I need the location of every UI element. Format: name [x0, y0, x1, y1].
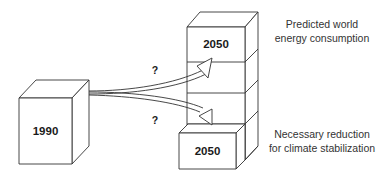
arrow-lower-shaft-bottom	[89, 95, 200, 112]
caption-reduced-line-2: for climate stabilization	[269, 142, 375, 154]
caption-reduced-line-1: Necessary reduction	[274, 128, 370, 140]
caption-predicted-line-2: energy consumption	[275, 32, 370, 44]
arrow-lower-question-mark: ?	[152, 114, 158, 126]
arrow-upper-shaft-top	[89, 70, 203, 91]
arrow-upper-question-mark: ?	[152, 64, 158, 76]
caption-reduced: Necessary reduction for climate stabiliz…	[269, 128, 375, 154]
caption-predicted-line-1: Predicted world	[286, 18, 359, 30]
cube-1990-label: 1990	[33, 125, 59, 137]
cube-1990: 1990	[19, 80, 89, 164]
arrow-lower-shaft-top	[89, 92, 203, 108]
reduced-box-label: 2050	[195, 145, 221, 157]
tower-predicted-label: 2050	[203, 38, 229, 50]
caption-predicted: Predicted world energy consumption	[275, 18, 370, 44]
energy-scenario-diagram: 1990 2050 2050	[0, 0, 390, 174]
